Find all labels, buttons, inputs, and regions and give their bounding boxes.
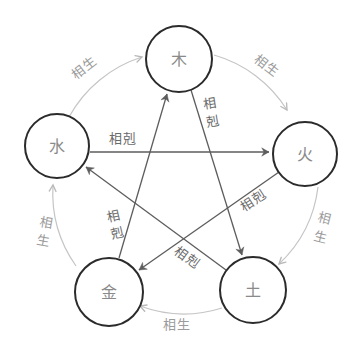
- generating-label-metal-water: 相 生: [35, 214, 55, 249]
- svg-text:生: 生: [35, 232, 51, 249]
- overcoming-label-water-fire: 相剋: [109, 131, 137, 146]
- svg-text:相: 相: [317, 210, 334, 228]
- generating-label-earth-metal: 相生: [163, 317, 191, 332]
- generating-label-water-wood: 相生: [69, 53, 100, 82]
- element-node-fire: 火: [273, 122, 337, 186]
- element-node-metal: 金: [75, 258, 143, 326]
- svg-text:剋: 剋: [205, 113, 221, 130]
- overcoming-arrow-metal-to-wood: [119, 94, 167, 258]
- metal-label: 金: [101, 283, 117, 302]
- svg-text:生: 生: [312, 228, 329, 246]
- overcoming-label-metal-wood: 相 剋: [106, 207, 127, 242]
- svg-text:剋: 剋: [110, 224, 127, 242]
- svg-text:相: 相: [38, 214, 54, 231]
- earth-label: 土: [245, 281, 261, 300]
- element-node-wood: 木: [146, 26, 212, 92]
- fire-label: 火: [297, 145, 313, 164]
- wood-label: 木: [171, 50, 187, 69]
- overcoming-label-wood-earth: 相 剋: [203, 95, 222, 130]
- overcoming-cycle-lines: [86, 90, 279, 270]
- svg-text:相: 相: [106, 207, 123, 225]
- five-elements-diagram: 木 火 土 金 水 相生 相生 相: [0, 0, 359, 351]
- overcoming-label-earth-water: 相剋: [172, 243, 203, 272]
- diagram-canvas: 木 火 土 金 水 相生 相生 相: [0, 0, 359, 351]
- overcoming-label-fire-metal: 相剋: [238, 187, 270, 215]
- generating-arrow-earth-to-metal: [140, 306, 222, 314]
- water-label: 水: [49, 137, 65, 156]
- svg-text:相: 相: [203, 95, 219, 112]
- overcoming-labels: 相剋 相 剋 相剋 相 剋 相剋: [106, 95, 270, 272]
- generating-label-fire-earth: 相 生: [312, 210, 334, 246]
- generating-arrow-fire-to-earth: [279, 187, 318, 264]
- element-node-water: 水: [25, 114, 89, 178]
- generating-arrow-metal-to-water: [53, 185, 76, 266]
- element-node-earth: 土: [220, 257, 286, 323]
